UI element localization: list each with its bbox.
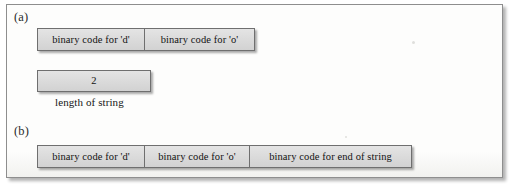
scan-speck	[412, 41, 415, 44]
panel-b-cell-char-1: binary code for 'o'	[144, 146, 249, 167]
panel-a-length-caption: length of string	[55, 96, 124, 109]
panel-a-cell-char-0: binary code for 'd'	[38, 29, 144, 50]
panel-b-string-characters-row: binary code for 'd' binary code for 'o' …	[37, 145, 412, 168]
panel-a-string-length-row: 2	[37, 70, 151, 92]
panel-label-a: (a)	[14, 11, 28, 24]
panel-label-b: (b)	[14, 125, 29, 138]
panel-a-cell-length-value: 2	[38, 71, 150, 91]
scan-speck	[345, 136, 347, 138]
panel-b-cell-terminator: binary code for end of string	[249, 146, 411, 167]
panel-b-cell-char-0: binary code for 'd'	[38, 146, 144, 167]
figure-container: (a) binary code for 'd' binary code for …	[0, 0, 519, 192]
panel-a-string-characters-row: binary code for 'd' binary code for 'o'	[37, 28, 255, 51]
panel-a-cell-char-1: binary code for 'o'	[144, 29, 254, 50]
